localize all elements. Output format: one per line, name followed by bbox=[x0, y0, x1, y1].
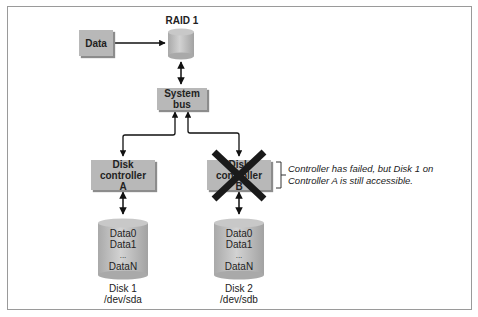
disk2-row: ... bbox=[214, 250, 264, 261]
disk2-row: Data0 bbox=[214, 228, 264, 239]
disk2-contents: Data0 Data1 ... DataN bbox=[214, 228, 264, 272]
disk1-row: DataN bbox=[98, 261, 148, 272]
disk1-row: ... bbox=[98, 250, 148, 261]
disk1-device: /dev/sda bbox=[93, 294, 153, 305]
annotation-line-2: Controller A is still accessible. bbox=[288, 175, 468, 187]
disk2-row: DataN bbox=[214, 261, 264, 272]
failure-annotation: Controller has failed, but Disk 1 on Con… bbox=[288, 163, 468, 187]
annotation-line-1: Controller has failed, but Disk 1 on bbox=[288, 163, 468, 175]
disk2-caption: Disk 2 /dev/sdb bbox=[209, 283, 269, 305]
disk1-row: Data0 bbox=[98, 228, 148, 239]
disk1-caption: Disk 1 /dev/sda bbox=[93, 283, 153, 305]
disk1-name: Disk 1 bbox=[93, 283, 153, 294]
disk2-row: Data1 bbox=[214, 239, 264, 250]
disk1-contents: Data0 Data1 ... DataN bbox=[98, 228, 148, 272]
disk2-name: Disk 2 bbox=[209, 283, 269, 294]
disk1-row: Data1 bbox=[98, 239, 148, 250]
disk2-device: /dev/sdb bbox=[209, 294, 269, 305]
